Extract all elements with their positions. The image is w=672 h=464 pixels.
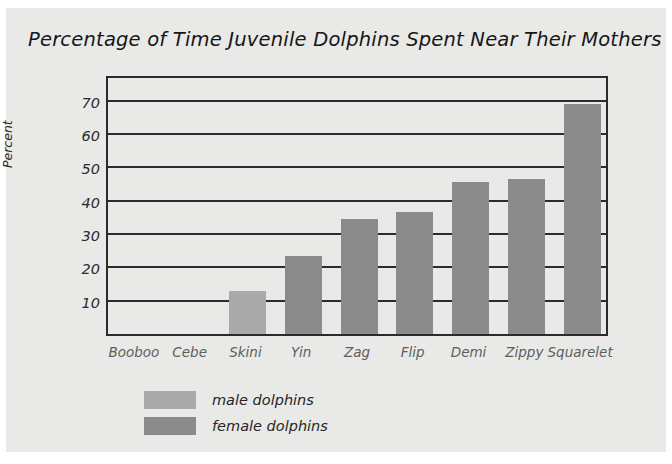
x-axis-tick-labels: BoobooCebeSkiniYinZagFlipDemiZippySquare… bbox=[106, 344, 608, 368]
y-axis-label: Percent bbox=[0, 120, 15, 168]
x-axis-tick-label: Zippy bbox=[505, 344, 543, 360]
bar bbox=[229, 291, 266, 334]
legend-item: female dolphins bbox=[144, 415, 328, 437]
y-axis-tick-label: 20 bbox=[66, 261, 100, 277]
y-axis-tick-label: 30 bbox=[66, 228, 100, 244]
y-axis-tick-label: 10 bbox=[66, 295, 100, 311]
y-axis-tick-label: 70 bbox=[66, 95, 100, 111]
y-axis-tick-label: 60 bbox=[66, 128, 100, 144]
bar bbox=[341, 219, 378, 334]
legend-label: male dolphins bbox=[212, 392, 314, 408]
plot-area bbox=[106, 76, 608, 336]
x-axis-tick-label: Demi bbox=[451, 344, 487, 360]
x-axis-tick-label: Skini bbox=[229, 344, 261, 360]
x-axis-tick-label: Zag bbox=[344, 344, 370, 360]
y-axis-tick-labels: 10203040506070 bbox=[54, 76, 100, 336]
x-axis-tick-label: Booboo bbox=[108, 344, 159, 360]
legend-swatch bbox=[144, 417, 196, 435]
bar bbox=[564, 104, 601, 334]
bar bbox=[452, 182, 489, 334]
legend-item: male dolphins bbox=[144, 389, 328, 411]
legend-swatch bbox=[144, 391, 196, 409]
chart-title: Percentage of Time Juvenile Dolphins Spe… bbox=[28, 28, 658, 51]
x-axis-tick-label: Flip bbox=[401, 344, 425, 360]
chart-panel: Percentage of Time Juvenile Dolphins Spe… bbox=[6, 8, 666, 452]
x-axis-tick-label: Yin bbox=[291, 344, 311, 360]
y-axis-tick-label: 40 bbox=[66, 195, 100, 211]
bar bbox=[285, 256, 322, 334]
bars-layer bbox=[108, 78, 606, 334]
x-axis-tick-label: Squarelet bbox=[548, 344, 613, 360]
bar bbox=[396, 212, 433, 334]
chart-legend: male dolphinsfemale dolphins bbox=[144, 389, 328, 441]
x-axis-tick-label: Cebe bbox=[172, 344, 207, 360]
legend-label: female dolphins bbox=[212, 418, 328, 434]
y-axis-tick-label: 50 bbox=[66, 161, 100, 177]
bar bbox=[508, 179, 545, 334]
